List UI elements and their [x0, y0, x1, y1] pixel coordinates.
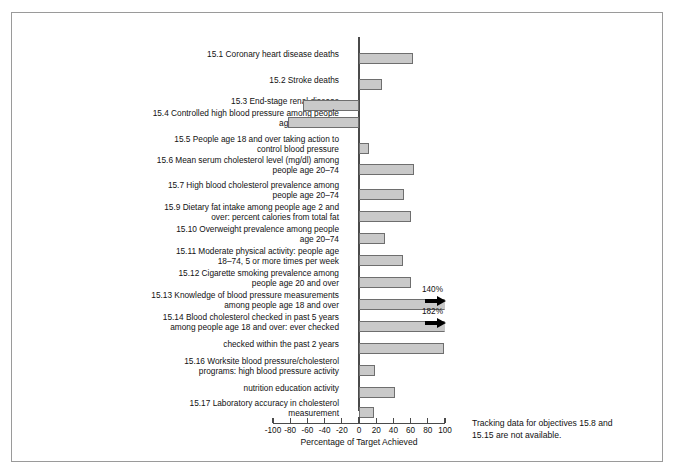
- row-label: 15.7 High blood cholesterol prevalence a…: [32, 181, 339, 200]
- x-tick: [272, 418, 273, 423]
- x-tick: [427, 418, 428, 423]
- bar-15-17: [359, 407, 374, 418]
- x-tick-label: 100: [430, 426, 460, 435]
- x-tick: [324, 418, 325, 423]
- x-tick: [410, 418, 411, 423]
- chart-row: 15.14 Blood cholesterol checked in past …: [12, 317, 664, 337]
- bar-15-16: [359, 365, 375, 376]
- row-label: 15.17 Laboratory accuracy in cholesterol…: [32, 399, 339, 418]
- row-label: 15.2 Stroke deaths: [32, 76, 339, 86]
- x-tick: [393, 418, 394, 423]
- bar-15-1: [359, 53, 413, 64]
- bar-15-7: [359, 189, 404, 200]
- bar-15-6: [359, 164, 414, 175]
- x-tick: [376, 418, 377, 423]
- row-label: 15.12 Cigarette smoking prevalence among…: [32, 269, 339, 288]
- bar-checked-past-2-years: [359, 343, 444, 354]
- bar-15-11: [359, 255, 403, 266]
- chart-figure-frame: 15.1 Coronary heart disease deaths 15.2 …: [11, 12, 663, 462]
- bar-nutrition-education-activity: [359, 387, 395, 398]
- x-tick: [341, 418, 342, 423]
- overflow-arrow-icon: [425, 295, 447, 306]
- bar-15-5: [359, 143, 369, 154]
- bar-15-12: [359, 277, 411, 288]
- row-label: 15.5 People age 18 and over taking actio…: [32, 135, 339, 154]
- row-label: nutrition education activity: [32, 384, 339, 394]
- row-label: checked within the past 2 years: [32, 340, 339, 350]
- bar-15-10: [359, 233, 385, 244]
- chart-row: 15.1 Coronary heart disease deaths: [12, 49, 664, 69]
- bar-value-label-15-13: 140%: [422, 285, 443, 294]
- row-label: 15.3 End-stage renal disease: [32, 97, 339, 107]
- footnote-tracking-data: Tracking data for objectives 15.8 and 15…: [472, 418, 672, 441]
- row-label: 15.11 Moderate physical activity: people…: [32, 247, 339, 266]
- bar-15-4: [288, 117, 359, 128]
- chart-plot-area: 15.1 Coronary heart disease deaths 15.2 …: [12, 13, 664, 463]
- row-label: 15.14 Blood cholesterol checked in past …: [32, 313, 339, 332]
- bar-15-2: [359, 79, 382, 90]
- x-axis-title: Percentage of Target Achieved: [259, 437, 459, 447]
- row-label: 15.13 Knowledge of blood pressure measur…: [32, 291, 339, 310]
- bar-value-label-15-14: 182%: [422, 307, 443, 316]
- chart-row: 15.16 Worksite blood pressure/cholestero…: [12, 361, 664, 381]
- row-label: 15.10 Overweight prevalence among people…: [32, 225, 339, 244]
- chart-row: 15.4 Controlled high blood pressure amon…: [12, 113, 664, 133]
- row-label: 15.6 Mean serum cholesterol level (mg/dl…: [32, 156, 339, 175]
- x-tick: [290, 418, 291, 423]
- x-tick: [307, 418, 308, 423]
- chart-row: 15.6 Mean serum cholesterol level (mg/dl…: [12, 160, 664, 180]
- x-tick: [358, 417, 359, 424]
- row-label: 15.16 Worksite blood pressure/cholestero…: [32, 357, 339, 376]
- x-tick: [444, 418, 445, 423]
- bar-15-9: [359, 211, 411, 222]
- chart-row: 15.2 Stroke deaths: [12, 75, 664, 95]
- row-label: 15.1 Coronary heart disease deaths: [32, 50, 339, 60]
- row-label: 15.9 Dietary fat intake among people age…: [32, 203, 339, 222]
- overflow-arrow-icon: [425, 317, 447, 328]
